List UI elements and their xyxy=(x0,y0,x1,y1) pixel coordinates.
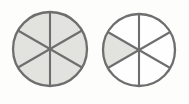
fraction-circles-figure xyxy=(0,0,189,104)
left-circle-group xyxy=(13,12,87,86)
fraction-circles-canvas xyxy=(0,0,189,104)
right-circle-group xyxy=(103,14,175,86)
